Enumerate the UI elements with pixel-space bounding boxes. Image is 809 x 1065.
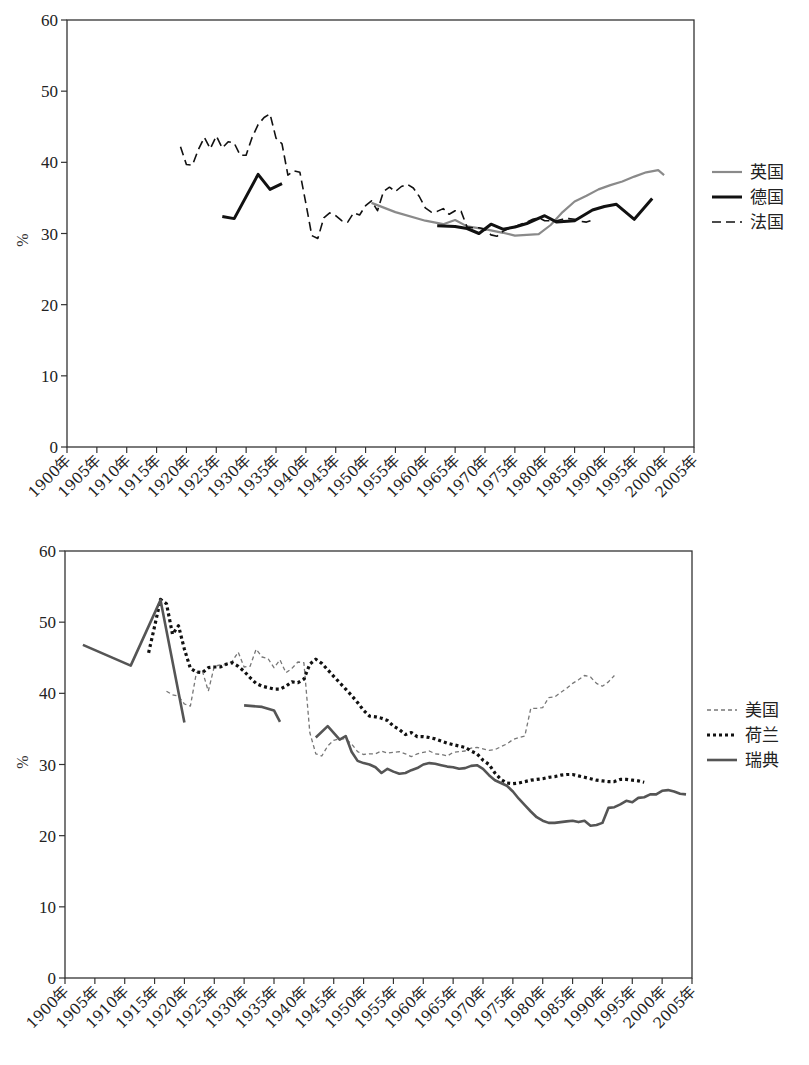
y-tick-label: 30: [39, 756, 56, 775]
y-tick-label: 0: [48, 969, 57, 988]
y-tick-label: 50: [41, 82, 58, 101]
y-tick-label: 10: [41, 367, 58, 386]
y-tick-label: 30: [41, 225, 58, 244]
series-line-0: [167, 649, 615, 757]
legend-label: 美国: [745, 700, 779, 720]
chart-top-svg: 01020304050601900年1905年1910年1915年1920年19…: [0, 0, 809, 530]
y-tick-label: 60: [41, 11, 58, 30]
y-tick-label: 0: [50, 438, 59, 457]
chart-top-uk-germany-france: 01020304050601900年1905年1910年1915年1920年19…: [0, 0, 809, 530]
top-axes: 01020304050601900年1905年1910年1915年1920年19…: [24, 11, 701, 501]
chart-bottom-us-netherlands-sweden: 01020304050601900年1905年1910年1915年1920年19…: [0, 530, 809, 1065]
plot-frame: [67, 20, 694, 447]
top-legend: 英国德国法国: [712, 162, 784, 232]
bottom-axes: 01020304050601900年1905年1910年1915年1920年19…: [22, 542, 699, 1032]
series-line-1: [222, 174, 652, 233]
top-series: [181, 114, 665, 239]
bottom-series: [83, 599, 686, 825]
y-tick-label: 40: [39, 684, 56, 703]
bottom-y-axis-label: %: [14, 755, 31, 768]
y-tick-label: 40: [41, 153, 58, 172]
y-tick-label: 20: [39, 827, 56, 846]
y-tick-label: 20: [41, 296, 58, 315]
y-tick-label: 10: [39, 898, 56, 917]
series-line-2: [83, 600, 686, 826]
legend-label: 荷兰: [745, 725, 779, 745]
chart-bottom-svg: 01020304050601900年1905年1910年1915年1920年19…: [0, 530, 809, 1065]
legend-label: 瑞典: [745, 750, 779, 770]
series-line-2: [181, 114, 593, 239]
legend-label: 英国: [750, 162, 784, 182]
bottom-legend: 美国荷兰瑞典: [707, 700, 779, 770]
series-line-1: [149, 599, 645, 783]
y-tick-label: 50: [39, 613, 56, 632]
y-tick-label: 60: [39, 542, 56, 561]
legend-label: 德国: [750, 187, 784, 207]
plot-frame: [65, 551, 692, 978]
top-y-axis-label: %: [14, 233, 31, 246]
legend-label: 法国: [750, 212, 784, 232]
